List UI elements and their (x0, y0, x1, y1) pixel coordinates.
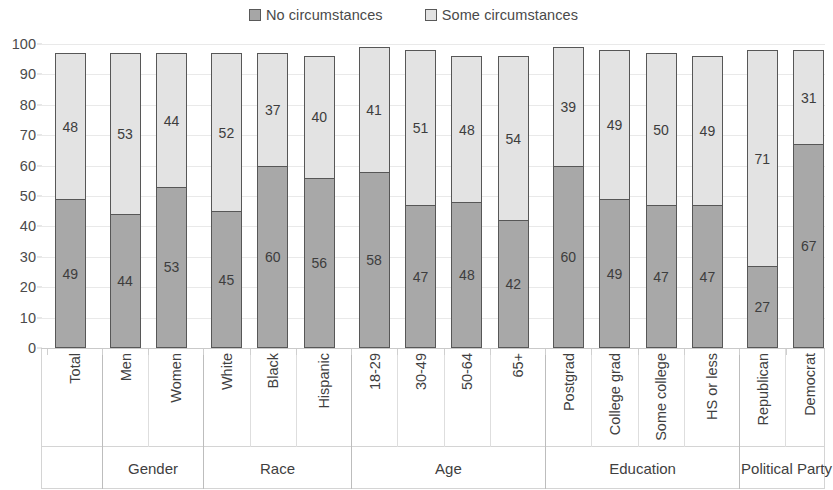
category-cell: Black (251, 349, 297, 447)
bar-segment-some-circumstances: 54 (498, 56, 529, 220)
y-axis-tick-label: 60 (0, 158, 36, 173)
x-axis-category-label: Republican (756, 353, 771, 426)
bar-segment-some-circumstances: 48 (451, 56, 482, 202)
bar-value-label: 44 (156, 114, 187, 128)
stacked-bar: 5047 (646, 53, 677, 348)
bar-value-label: 49 (599, 267, 630, 281)
bar-segment-some-circumstances: 53 (110, 53, 141, 214)
x-axis-category-label: Democrat (802, 353, 817, 416)
x-axis-tick-mark (203, 349, 204, 355)
bar-segment-some-circumstances: 41 (359, 47, 390, 172)
bar-value-label: 39 (553, 100, 584, 114)
bar-segment-some-circumstances: 49 (599, 50, 630, 199)
bar-segment-no-circumstances: 27 (747, 266, 778, 348)
category-cell: Men (103, 349, 149, 447)
x-axis-tick-mark (102, 349, 103, 355)
bar-segment-some-circumstances: 48 (55, 53, 86, 199)
bar-value-label: 67 (793, 239, 824, 253)
stacked-bar: 3167 (793, 50, 824, 348)
legend-entry-some-circumstances: Some circumstances (425, 7, 578, 23)
y-axis-tick-label: 100 (0, 37, 36, 52)
category-cell: 18-29 (352, 349, 398, 447)
stacked-bar: 4848 (451, 56, 482, 348)
x-axis-tick-mark (545, 349, 546, 355)
category-cell: Some college (639, 349, 685, 447)
x-axis-category-label: HS or less (705, 353, 720, 420)
x-axis-tick-mark (591, 349, 592, 355)
y-axis-tick-label: 0 (0, 341, 36, 356)
bar-value-label: 49 (599, 118, 630, 132)
category-cell: 30-49 (398, 349, 444, 447)
stacked-bar: 5147 (405, 50, 436, 348)
bar-value-label: 47 (646, 270, 677, 284)
bar-segment-some-circumstances: 49 (692, 56, 723, 205)
x-axis-category-label: 18-29 (367, 353, 382, 390)
category-cell: Postgrad (546, 349, 592, 447)
bar-segment-no-circumstances: 47 (646, 205, 677, 348)
bar-value-label: 60 (257, 250, 288, 264)
x-axis-category-label: College grad (608, 353, 623, 435)
x-axis-tick-mark (444, 349, 445, 355)
group-cell (48, 447, 103, 489)
x-axis-tick-mark (47, 349, 48, 355)
stacked-bar: 4453 (156, 53, 187, 348)
stacked-bar: 5344 (110, 53, 141, 348)
x-axis-tick-mark (490, 349, 491, 355)
bar-value-label: 44 (110, 274, 141, 288)
legend-swatch-icon-some-circumstances (425, 9, 437, 21)
bar-segment-no-circumstances: 58 (359, 172, 390, 348)
bar-value-label: 49 (692, 124, 723, 138)
x-axis-tick-mark (250, 349, 251, 355)
x-axis-group-label: Race (260, 461, 295, 476)
group-cell: Education (546, 447, 740, 489)
x-axis-tick-mark (739, 349, 740, 355)
stacked-bar: 3960 (553, 47, 584, 348)
bar-segment-no-circumstances: 49 (599, 199, 630, 348)
bar-segment-some-circumstances: 37 (257, 53, 288, 165)
category-cell: Total (48, 349, 103, 447)
group-cell: Gender (103, 447, 204, 489)
bar-value-label: 31 (793, 91, 824, 105)
stacked-bar: 5245 (211, 53, 242, 348)
y-axis-tick-label: 50 (0, 189, 36, 204)
x-axis-category-label: Total (68, 353, 83, 384)
category-cell: Women (149, 349, 204, 447)
y-axis-tick-label: 80 (0, 98, 36, 113)
legend-swatch-icon-no-circumstances (249, 9, 261, 21)
bar-value-label: 50 (646, 123, 677, 137)
bar-segment-no-circumstances: 47 (692, 205, 723, 348)
stacked-bar: 5442 (498, 56, 529, 348)
x-axis-tick-mark (351, 349, 352, 355)
x-axis-category-label: Some college (654, 353, 669, 441)
bar-segment-some-circumstances: 71 (747, 50, 778, 266)
stacked-bar: 4949 (599, 50, 630, 348)
bar-segment-no-circumstances: 60 (257, 166, 288, 348)
bar-segment-no-circumstances: 53 (156, 187, 187, 348)
stacked-bar: 7127 (747, 50, 778, 348)
bar-segment-some-circumstances: 51 (405, 50, 436, 205)
x-axis-category-label: Men (118, 353, 133, 381)
x-axis-tick-mark (148, 349, 149, 355)
bar-segment-some-circumstances: 52 (211, 53, 242, 211)
stacked-bar: 3760 (257, 53, 288, 348)
stacked-bar: 4849 (55, 53, 86, 348)
bar-value-label: 71 (747, 152, 778, 166)
category-cell: College grad (592, 349, 638, 447)
x-axis-category-label: Hispanic (317, 353, 332, 409)
category-cell: Hispanic (297, 349, 352, 447)
legend-label-some-circumstances: Some circumstances (442, 7, 578, 23)
y-axis-tick-label: 90 (0, 67, 36, 82)
legend-entry-no-circumstances: No circumstances (249, 7, 383, 23)
plot-area: 4849534444535245376040564158514748485442… (41, 44, 825, 348)
x-axis-group-label: Political Party (741, 461, 832, 476)
x-axis-category-label: White (220, 353, 235, 390)
x-axis-tick-mark (638, 349, 639, 355)
legend-label-no-circumstances: No circumstances (266, 7, 383, 23)
stacked-bar: 4158 (359, 47, 390, 348)
y-axis: 0102030405060708090100 (0, 44, 36, 348)
bar-segment-no-circumstances: 49 (55, 199, 86, 348)
bar-value-label: 60 (553, 250, 584, 264)
group-cell: Age (352, 447, 546, 489)
x-axis-group-label: Education (609, 461, 676, 476)
bar-value-label: 53 (156, 260, 187, 274)
